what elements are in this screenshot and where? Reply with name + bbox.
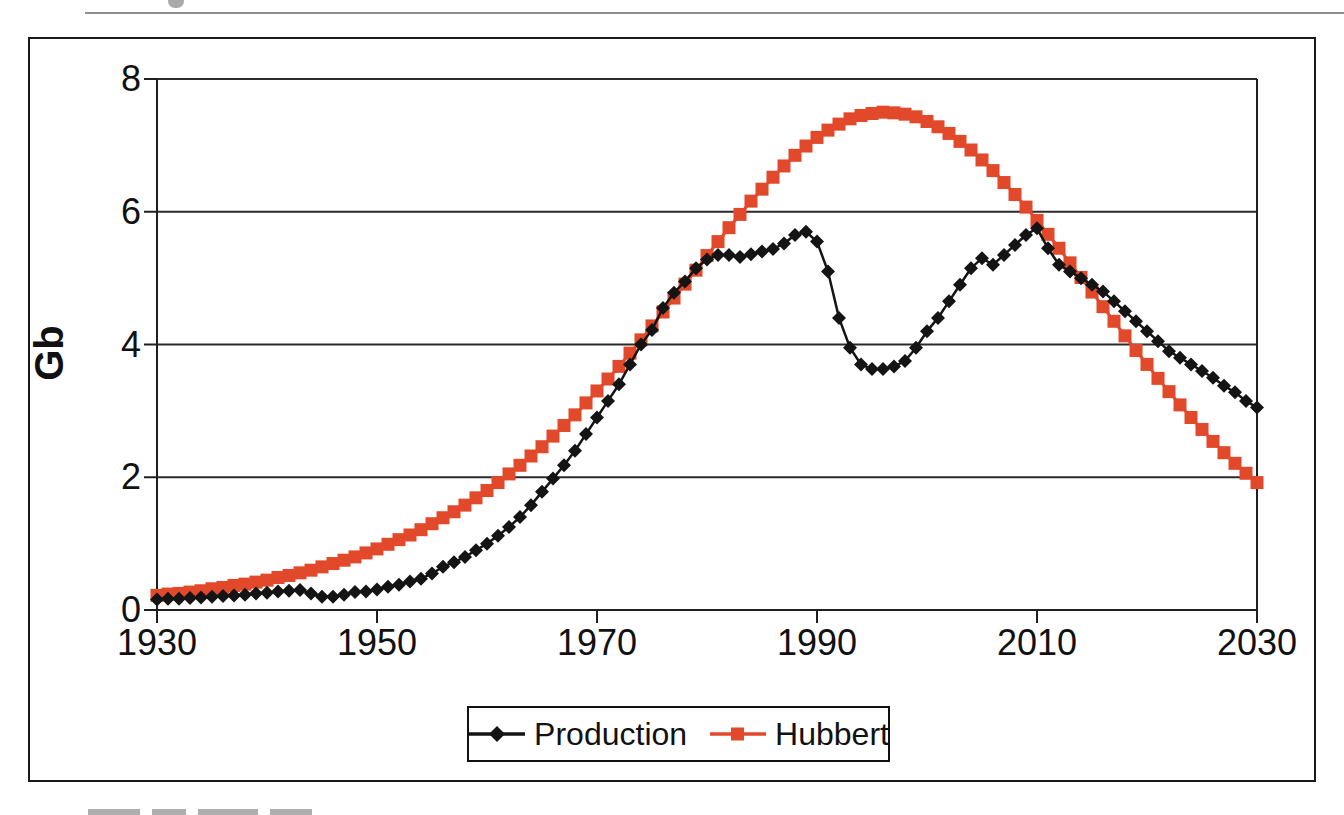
- hubbert-marker-sample: [709, 722, 767, 746]
- legend: Production Hubbert: [467, 706, 890, 762]
- cropped-caption-fragment: [88, 809, 140, 815]
- x-tick-label: 1950: [317, 622, 437, 664]
- cropped-text-fragment-top: [168, 0, 184, 8]
- x-tick-label: 1930: [97, 622, 217, 664]
- x-tick-label: 1990: [757, 622, 877, 664]
- chart-frame: [28, 37, 1316, 782]
- legend-label-hubbert: Hubbert: [775, 716, 889, 753]
- legend-item-production: Production: [468, 716, 687, 753]
- y-tick-label: 8: [21, 57, 141, 101]
- y-tick-label: 4: [21, 323, 141, 367]
- legend-item-hubbert: Hubbert: [709, 716, 889, 753]
- page: Gb 02468 193019501970199020102030 Produc…: [0, 0, 1344, 815]
- y-tick-label: 2: [21, 455, 141, 499]
- y-tick-label: 6: [21, 190, 141, 234]
- x-tick-label: 2030: [1197, 622, 1317, 664]
- legend-label-production: Production: [534, 716, 687, 753]
- cropped-caption-fragment: [270, 809, 312, 815]
- x-tick-label: 2010: [977, 622, 1097, 664]
- x-tick-label: 1970: [537, 622, 657, 664]
- production-marker-sample: [468, 722, 526, 746]
- cropped-caption-fragment: [198, 809, 258, 815]
- cropped-caption-fragment: [152, 809, 186, 815]
- page-top-rule: [85, 12, 1344, 14]
